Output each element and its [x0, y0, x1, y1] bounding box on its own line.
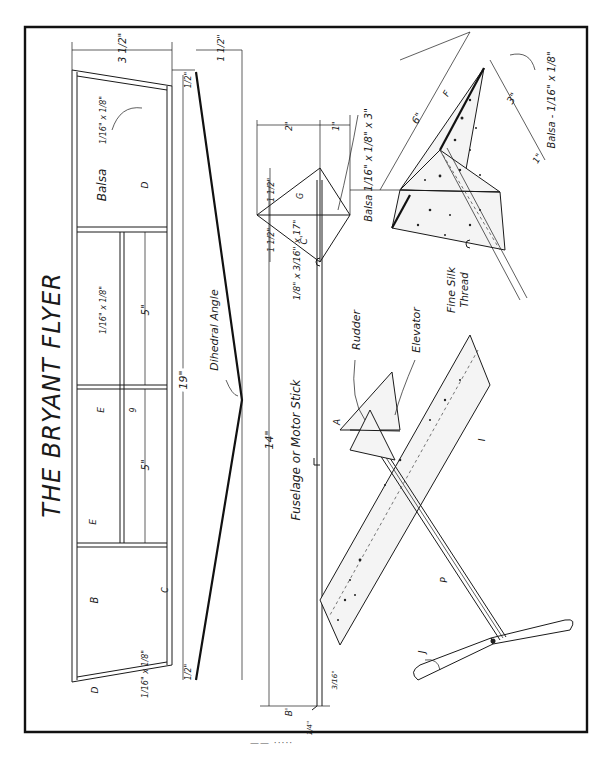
part-label-g: 9 — [129, 407, 138, 412]
tail-material-label: Balsa 1/16" x 1/8" x 3" — [363, 108, 374, 222]
tail-perspective-view: 6" 3" 1" F Balsa - 1/16" x 1/8" — [350, 32, 557, 300]
elevator-label: Elevator — [410, 306, 423, 353]
part-label-f: F — [441, 88, 453, 98]
rib-size-label: 1/16" x 1/8" — [99, 286, 108, 334]
section-dimension-2: 5" — [140, 460, 151, 471]
part-label-j: J — [417, 650, 427, 655]
chord-dimension: 3 1/2" — [117, 33, 128, 63]
fuselage-view: 14" Fuselage or Motor Stick 1/8" x 3/16"… — [260, 180, 342, 735]
bearing-dimension: 1/4" — [306, 721, 314, 736]
part-label-p: P — [439, 577, 449, 583]
rudder-label: Rudder — [350, 309, 363, 350]
thread-label: Thread — [459, 272, 470, 308]
svg-text:19": 19" — [177, 370, 190, 389]
bryant-flyer-plan-sheet: THE BRYANT FLYER 3 1/2" 19" 19" — [0, 0, 603, 758]
part-label-g-tail: G — [296, 193, 305, 199]
title-block: THE BRYANT FLYER — [38, 272, 66, 517]
part-label-b: B — [89, 596, 100, 603]
part-label-c: C — [161, 587, 170, 593]
tip-offset-dimension-bottom: 1/2" — [184, 664, 193, 681]
part-label-a: A — [332, 419, 342, 426]
tail-width-dimension-2: 1" — [331, 121, 341, 131]
part-label-e-bottom: E — [88, 519, 98, 525]
tail-offset-dimension: 1" — [531, 152, 545, 166]
tail-half-span-1: 1 1/2" — [267, 178, 276, 202]
section-dimension-1: 5" — [140, 305, 151, 316]
dihedral-angle-label: Dihedral Angle — [208, 289, 221, 371]
tip-rib-size-label-bottom: 1/16" x 1/8" — [141, 650, 150, 698]
dihedral-view: 1 1/2" Dihedral Angle — [196, 34, 242, 680]
part-label-c-prime: C' — [299, 236, 309, 245]
tail-half-span-2: 1 1/2" — [267, 228, 276, 252]
fuselage-length-dimension: 14" — [263, 430, 276, 449]
tail-width-dimension-1: 2" — [284, 121, 294, 131]
fuselage-size-label: 1/8" x 3/16" x 17" — [292, 220, 302, 301]
page-footer: —— ····· — [250, 738, 293, 748]
tail-length-dimension: 6" — [409, 111, 424, 126]
drawing-border — [25, 27, 587, 732]
fuselage-label: Fuselage or Motor Stick — [289, 378, 303, 520]
assembly-perspective-view: Rudder Elevator Fine Silk Thread I P J — [320, 266, 573, 680]
wing-plan-view: 3 1/2" 19" 19" 5" 5" 1/2" 1/2" Balsa 1/1… — [72, 33, 195, 698]
hook-dimension: 3/16" — [331, 671, 339, 690]
tip-rib-size-label: 1/16" x 1/8" — [99, 96, 108, 144]
part-label-d-top: D — [140, 181, 150, 188]
tail-height-dimension: 3" — [504, 91, 519, 106]
part-label-d-bottom: D — [90, 686, 100, 693]
part-label-e-top: E — [96, 407, 106, 413]
fine-silk-label: Fine Silk — [445, 266, 458, 313]
tail-material-label-perspective: Balsa - 1/16" x 1/8" — [546, 51, 557, 148]
tip-offset-dimension-top: 1/2" — [184, 72, 193, 89]
page-title: THE BRYANT FLYER — [38, 272, 66, 517]
tail-detail-view: 2" 1" 1 1/2" 1 1/2" G C' Balsa 1/16" x 1… — [257, 108, 374, 266]
balsa-label: Balsa — [95, 169, 109, 202]
part-label-b-prime: B' — [284, 708, 294, 717]
dihedral-rise-dimension: 1 1/2" — [216, 34, 226, 61]
part-label-i: I — [477, 438, 487, 441]
